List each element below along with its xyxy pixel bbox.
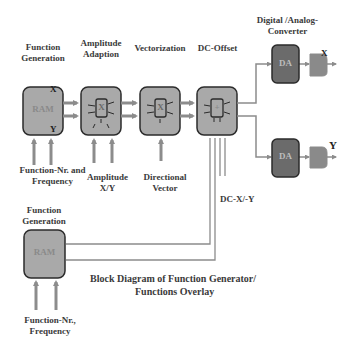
vectorization-label: Vectorization: [132, 43, 188, 54]
function-generation-bottom-label: Function Generation: [18, 205, 70, 227]
output-filter-bottom: [310, 147, 327, 168]
function-nr-frequency-top-label: Function-Nr. and Frequency: [15, 165, 90, 187]
ram-top-x-label: X: [50, 84, 57, 94]
ram-top-y-label: Y: [50, 124, 57, 134]
vec-inner-label: X: [155, 102, 166, 112]
output-x-label: X: [321, 48, 328, 58]
diagram-caption: Block Diagram of Function Generator/ Fun…: [90, 272, 265, 298]
function-generation-top-label: Function Generation: [18, 42, 68, 64]
dc-xy-label: DC-X/-Y: [220, 194, 255, 205]
ram-bottom-label: RAM: [24, 247, 65, 257]
amp-inner-label: X: [96, 102, 107, 112]
amplitude-xy-label: Amplitude X/Y: [85, 172, 130, 194]
ram-top-label: RAM: [23, 104, 63, 114]
function-nr-frequency-bottom-label: Function-Nr., Frequency: [20, 315, 80, 337]
da-top-label: DA: [272, 58, 299, 68]
dac-label: Digital /Analog- Converter: [255, 15, 320, 37]
amplitude-adaption-label: Amplitude Adaption: [76, 38, 126, 60]
dc-offset-label: DC-Offset: [195, 43, 240, 54]
directional-vector-label: Directional Vector: [140, 172, 190, 194]
output-y-label: Y: [329, 139, 337, 151]
da-bottom-label: DA: [272, 151, 299, 161]
dc-inner-label: +: [211, 102, 223, 112]
